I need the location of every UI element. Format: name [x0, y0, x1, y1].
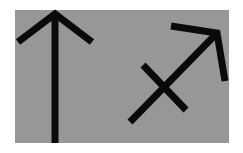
symbols-canvas [0, 0, 243, 153]
up-arrow-icon [18, 14, 92, 143]
sagittarius-icon [130, 26, 225, 122]
